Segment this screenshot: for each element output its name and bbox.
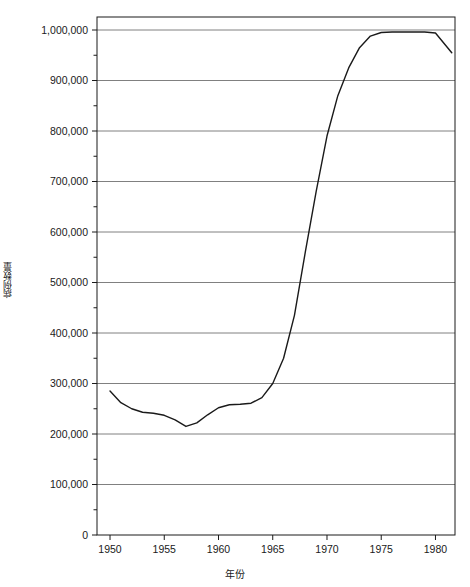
x-axis-label: 年份	[0, 566, 470, 581]
x-tick-label: 1960	[207, 543, 231, 555]
y-tick-label: 900,000	[50, 74, 88, 86]
y-tick-labels-group: 0100,000200,000300,000400,000500,000600,…	[41, 24, 88, 541]
x-tick-label: 1955	[153, 543, 177, 555]
y-tick-label: 200,000	[50, 428, 88, 440]
gridlines-group	[97, 30, 455, 485]
y-tick-label: 400,000	[50, 327, 88, 339]
y-tick-marks-group	[92, 30, 97, 535]
line-chart-plot: 0100,000200,000300,000400,000500,000600,…	[0, 0, 470, 587]
x-tick-label: 1965	[261, 543, 285, 555]
y-tick-label: 800,000	[50, 125, 88, 137]
x-tick-label: 1970	[315, 543, 339, 555]
plot-area-frame	[97, 17, 455, 535]
x-tick-marks-group	[110, 535, 435, 540]
x-tick-label: 1980	[424, 543, 448, 555]
y-tick-label: 100,000	[50, 478, 88, 490]
y-tick-label: 1,000,000	[41, 24, 88, 36]
data-series-line	[110, 32, 452, 426]
y-tick-label: 300,000	[50, 377, 88, 389]
y-tick-label: 600,000	[50, 226, 88, 238]
x-tick-labels-group: 1950195519601965197019751980	[98, 543, 447, 555]
y-tick-label: 0	[82, 529, 88, 541]
x-tick-label: 1975	[370, 543, 394, 555]
chart-figure: 病例数量 0100,000200,000300,000400,000500,00…	[0, 0, 470, 587]
x-tick-label: 1950	[98, 543, 122, 555]
y-tick-label: 500,000	[50, 276, 88, 288]
y-tick-label: 700,000	[50, 175, 88, 187]
